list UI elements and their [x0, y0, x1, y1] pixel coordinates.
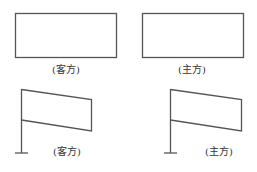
label-away-rectangle: (客方) [52, 64, 80, 76]
label-home-rectangle: (主方) [178, 64, 206, 76]
rectangle-home [143, 14, 244, 58]
label-away-flag: (客方) [53, 146, 81, 158]
label-home-flag: (主方) [205, 146, 233, 158]
flag-cloth [171, 90, 242, 132]
flag-away [15, 89, 92, 153]
flag-home [164, 89, 242, 153]
rectangle-away [16, 14, 117, 58]
flag-cloth [22, 90, 92, 132]
